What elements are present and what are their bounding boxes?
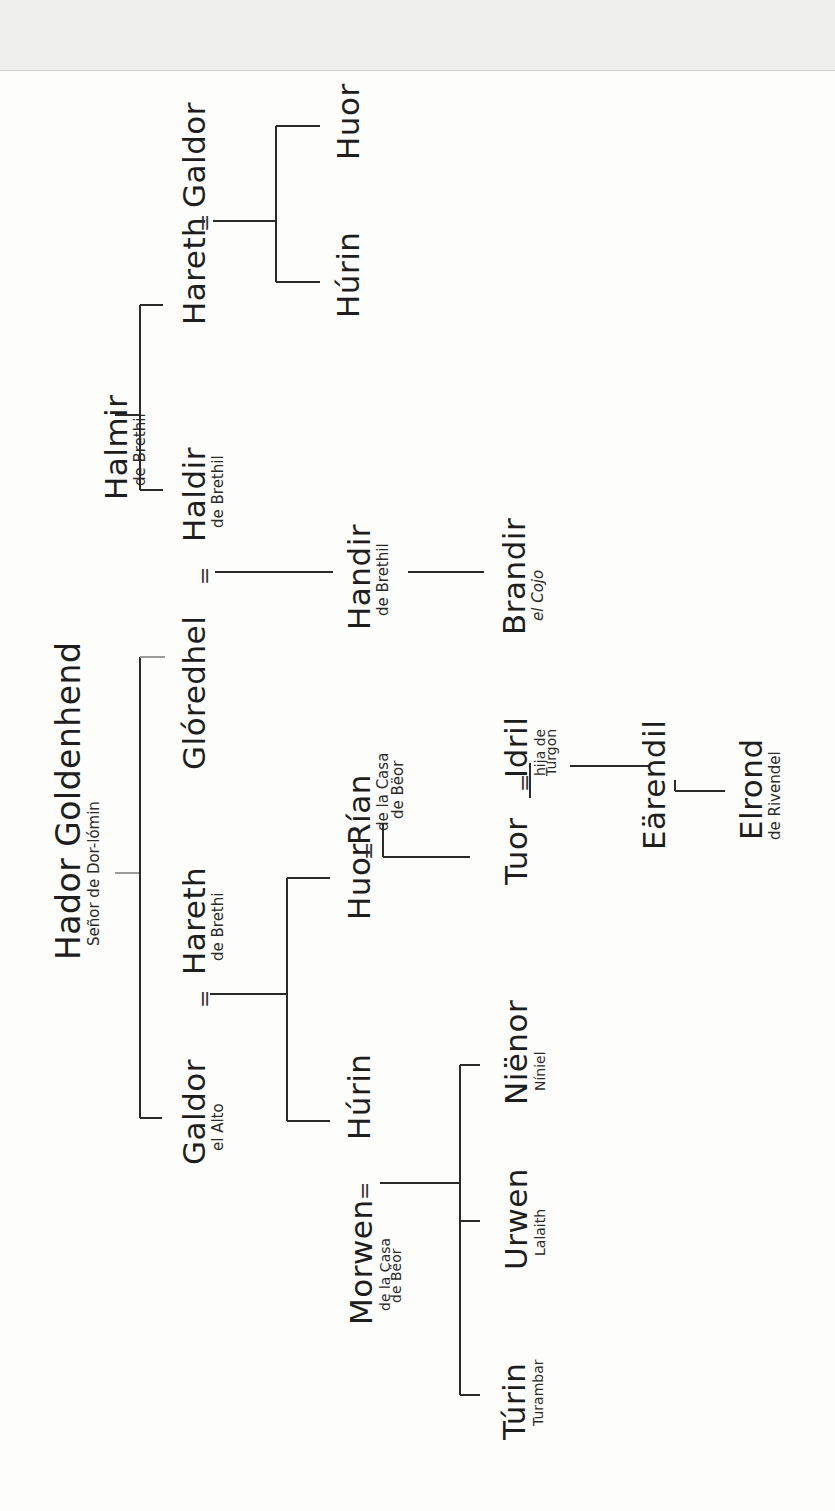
person-title: Níniel	[533, 1000, 548, 1105]
person-name: Idril	[500, 717, 533, 778]
marriage-symbol: =	[192, 567, 217, 585]
connector-lines	[0, 0, 835, 1511]
person-turin: Túrin Turambar	[498, 1360, 545, 1441]
person-haldir: Haldir de Brethil	[178, 447, 226, 542]
person-idril: Idril hija de Turgon	[500, 717, 559, 778]
person-title: Turambar	[531, 1360, 546, 1441]
marriage-symbol: =	[192, 990, 217, 1008]
person-brandir: Brandir el Cojo	[498, 518, 546, 635]
person-morwen: Morwen de la Casa de Bëor	[345, 1199, 404, 1325]
person-name: Urwen	[500, 1168, 533, 1270]
person-nienor: Niënor Níniel	[500, 1000, 547, 1105]
person-name: Morwen	[345, 1199, 378, 1325]
person-name: Niënor	[500, 1000, 533, 1105]
marriage-symbol: =	[352, 1182, 377, 1200]
person-name: Húrin	[343, 1054, 376, 1140]
person-title-line2: Turgon	[544, 717, 559, 778]
person-name: Glóredhel	[178, 616, 211, 770]
person-title: de Brethil	[376, 524, 392, 630]
person-name: Brandir	[498, 518, 531, 635]
person-name: Eärendil	[638, 720, 671, 850]
person-name: Huor	[332, 83, 365, 160]
person-hareth-brethil: Hareth de Brethi	[178, 867, 226, 975]
person-hurin: Húrin	[343, 1054, 376, 1140]
person-name: Tuor	[500, 817, 533, 885]
person-title: Señor de Dor-lómin	[87, 642, 103, 960]
person-hador: Hador Goldenhend Señor de Dor-lómin	[52, 642, 102, 960]
person-name: Haldir	[178, 447, 211, 542]
marriage-symbol: =	[192, 214, 217, 232]
person-title-line2: de Bëor	[391, 753, 407, 845]
person-galdor: Galdor	[178, 102, 211, 208]
person-title: de Brethi	[211, 867, 227, 975]
person-huor-top: Huor	[332, 83, 365, 160]
person-name: Halmir	[100, 395, 133, 500]
person-handir: Handir de Brethil	[343, 524, 391, 630]
person-title: Lalaith	[533, 1168, 548, 1270]
person-hurin-top: Húrin	[332, 232, 365, 318]
person-rian: Rían de la Casa de Bëor	[343, 753, 407, 845]
person-elrond: Elrond de Rivendel	[735, 738, 783, 840]
person-name: Galdor	[178, 102, 211, 208]
person-name: Elrond	[735, 738, 768, 840]
person-name: Hador Goldenhend	[52, 642, 87, 960]
person-name: Húrin	[332, 232, 365, 318]
person-title: el Cojo	[531, 518, 547, 635]
person-tuor: Tuor	[500, 817, 533, 885]
person-title: el Alto	[211, 1059, 227, 1165]
person-title: de Brethil	[211, 447, 227, 542]
person-name: Hareth	[178, 867, 211, 975]
person-gloredhel: Glóredhel	[178, 616, 211, 770]
person-earendil: Eärendil	[638, 720, 671, 850]
person-urwen: Urwen Lalaith	[500, 1168, 547, 1270]
person-name: Rían	[343, 753, 376, 845]
person-galdor-el-alto: Galdor el Alto	[178, 1059, 226, 1165]
person-name: Handir	[343, 524, 376, 630]
person-halmir: Halmir de Brethil	[100, 395, 148, 500]
person-title: de Rivendel	[768, 738, 784, 840]
person-name: Galdor	[178, 1059, 211, 1165]
person-hareth: Hareth	[178, 217, 211, 325]
person-name: Túrin	[498, 1360, 531, 1441]
person-title: de Brethil	[133, 395, 149, 500]
person-name: Hareth	[178, 217, 211, 325]
